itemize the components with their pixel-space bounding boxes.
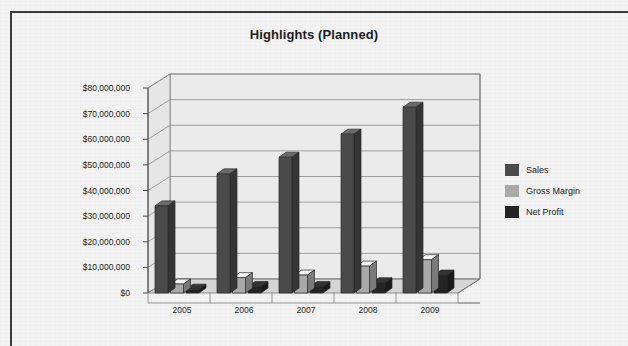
- bar-side: [370, 261, 377, 293]
- legend-item-sales[interactable]: Sales: [505, 163, 580, 176]
- x-axis-label-2005: 2005: [152, 305, 212, 315]
- legend-label: Sales: [526, 164, 549, 176]
- legend-label: Net Profit: [526, 206, 564, 218]
- x-axis-label-2007: 2007: [276, 305, 336, 315]
- bar-side: [432, 255, 439, 293]
- legend-label: Gross Margin: [526, 185, 580, 197]
- legend-swatch-icon: [505, 185, 519, 197]
- bar: [155, 201, 175, 293]
- legend-item-gross-margin[interactable]: Gross Margin: [505, 184, 580, 197]
- bar-front: [155, 206, 168, 293]
- legend-swatch-icon: [505, 164, 519, 176]
- bar-side: [416, 102, 423, 293]
- bar: [403, 102, 423, 293]
- legend-item-net-profit[interactable]: Net Profit: [505, 205, 580, 218]
- chart-legend: SalesGross MarginNet Profit: [505, 163, 580, 226]
- bar: [341, 129, 361, 293]
- bar-side: [230, 169, 237, 293]
- x-axis-label-2009: 2009: [400, 305, 460, 315]
- bar-side: [292, 152, 299, 293]
- chart-container: Highlights (Planned) $0$10,000,000$20,00…: [0, 0, 628, 346]
- bar-side: [168, 201, 175, 293]
- bar-front: [341, 134, 354, 293]
- bar-side: [354, 129, 361, 293]
- bar-front: [217, 174, 230, 293]
- bar-front: [403, 107, 416, 293]
- x-axis-label-2008: 2008: [338, 305, 398, 315]
- bar: [217, 169, 237, 293]
- x-axis-label-2006: 2006: [214, 305, 274, 315]
- bar-front: [279, 157, 292, 293]
- bar: [279, 152, 299, 293]
- legend-swatch-icon: [505, 206, 519, 218]
